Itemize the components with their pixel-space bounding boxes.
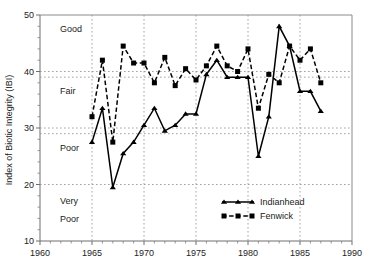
data-marker-triangle bbox=[131, 140, 137, 144]
x-ticklabel: 1970 bbox=[134, 248, 154, 258]
x-axis-ticklabels: 1960196519701975198019851990 bbox=[30, 248, 362, 258]
data-marker-triangle bbox=[141, 123, 147, 127]
data-marker-triangle bbox=[266, 114, 272, 118]
data-marker-square bbox=[225, 63, 230, 68]
data-marker-triangle bbox=[255, 154, 261, 158]
chart-container: 1020304050 1960196519701975198019851990 … bbox=[0, 0, 375, 276]
y-axis-title: Index of Biotic Integrity (IBI) bbox=[4, 75, 14, 186]
y-ticklabel: 10 bbox=[24, 236, 34, 246]
data-marker-square bbox=[152, 80, 157, 85]
legend-item-indianhead: Indianhead bbox=[221, 197, 305, 207]
y-axis-ticklabels: 1020304050 bbox=[24, 10, 34, 246]
y-ticklabel: 20 bbox=[24, 180, 34, 190]
y-axis-ticks bbox=[36, 15, 40, 241]
data-marker-square bbox=[246, 46, 251, 51]
zone-boundary-lines bbox=[40, 77, 352, 133]
data-marker-square bbox=[298, 58, 303, 63]
data-marker-triangle bbox=[318, 109, 324, 113]
data-marker-square bbox=[110, 140, 115, 145]
data-marker-triangle bbox=[110, 185, 116, 189]
x-axis-ticks bbox=[40, 241, 352, 245]
data-marker-square bbox=[308, 46, 313, 51]
legend-item-fenwick: Fenwick bbox=[222, 211, 294, 221]
y-ticklabel: 40 bbox=[24, 67, 34, 77]
zone-label-poor: Poor bbox=[60, 143, 79, 153]
series-fenwick bbox=[90, 44, 324, 145]
data-marker-triangle bbox=[99, 106, 105, 110]
ibi-trend-chart: 1020304050 1960196519701975198019851990 … bbox=[0, 0, 375, 276]
data-marker-square bbox=[90, 114, 95, 119]
data-marker-square bbox=[318, 80, 323, 85]
x-ticklabel: 1960 bbox=[30, 248, 50, 258]
data-marker-square bbox=[204, 63, 209, 68]
x-ticklabel: 1980 bbox=[238, 248, 258, 258]
x-ticklabel: 1990 bbox=[342, 248, 362, 258]
data-marker-square bbox=[277, 80, 282, 85]
y-ticklabel: 30 bbox=[24, 123, 34, 133]
data-marker-square bbox=[222, 214, 227, 219]
data-marker-square bbox=[162, 55, 167, 60]
data-marker-square bbox=[131, 61, 136, 66]
x-ticklabel: 1975 bbox=[186, 248, 206, 258]
data-marker-square bbox=[235, 69, 240, 74]
data-marker-square bbox=[236, 214, 241, 219]
x-ticklabel: 1965 bbox=[82, 248, 102, 258]
data-marker-square bbox=[214, 44, 219, 49]
zone-label-fair: Fair bbox=[60, 86, 76, 96]
data-marker-square bbox=[183, 66, 188, 71]
data-marker-square bbox=[256, 106, 261, 111]
data-marker-triangle bbox=[276, 24, 282, 28]
data-marker-square bbox=[194, 77, 199, 82]
series-line-fenwick bbox=[92, 46, 321, 142]
x-ticklabel: 1985 bbox=[290, 248, 310, 258]
data-marker-square bbox=[100, 58, 105, 63]
data-marker-triangle bbox=[151, 106, 157, 110]
zone-label-good: Good bbox=[60, 24, 82, 34]
data-marker-triangle bbox=[89, 140, 95, 144]
legend-label: Indianhead bbox=[260, 197, 305, 207]
data-marker-square bbox=[121, 44, 126, 49]
zone-label-very: Very bbox=[60, 196, 79, 206]
data-marker-triangle bbox=[214, 58, 220, 62]
data-marker-square bbox=[173, 83, 178, 88]
data-marker-square bbox=[266, 72, 271, 77]
zone-label-very-poor: Poor bbox=[60, 214, 79, 224]
data-marker-square bbox=[142, 61, 147, 66]
y-ticklabel: 50 bbox=[24, 10, 34, 20]
legend-label: Fenwick bbox=[260, 211, 294, 221]
data-marker-square bbox=[250, 214, 255, 219]
chart-legend: IndianheadFenwick bbox=[221, 197, 305, 221]
